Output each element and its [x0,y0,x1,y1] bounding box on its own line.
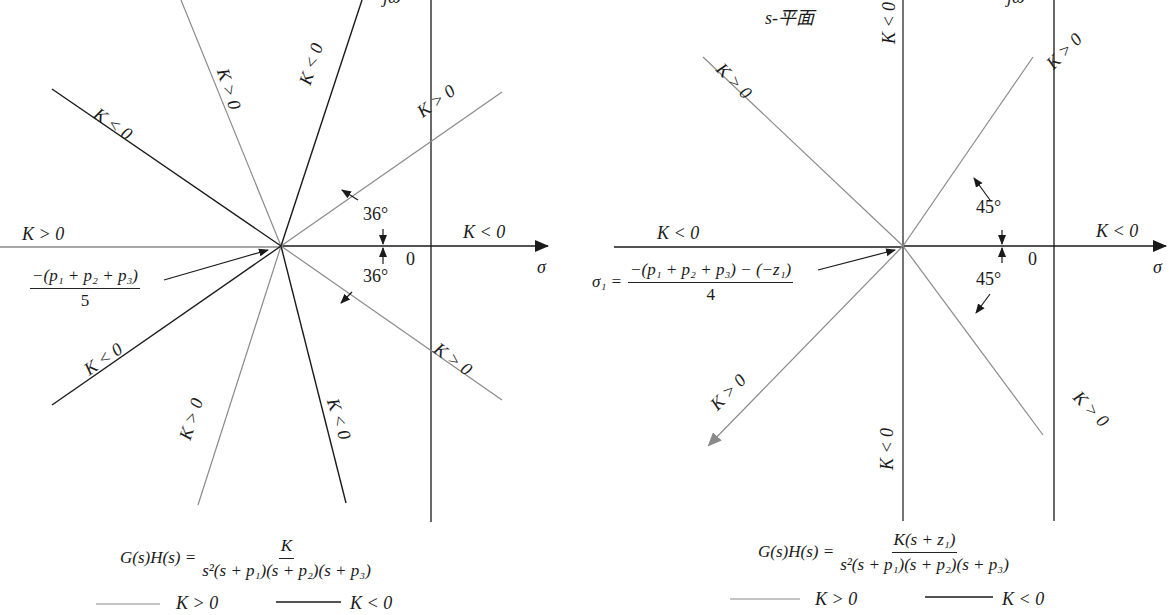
right-angle-lower-label: 45° [976,270,1001,288]
right-angle-lower-arrow [976,294,990,313]
right-tf-lhs: G(s)H(s) = [758,542,834,562]
right-sigma-label: σ [1153,258,1162,276]
right-legend-kpos-label: K > 0 [815,590,857,608]
left-asymptote-108 [181,0,281,246]
root-locus-asymptotes-drawing [0,0,1169,615]
right-asymptote-45 [903,57,1033,246]
left-centroid-formula: −(p₁ + p₂ + p₃) 5 [30,266,140,310]
left-angle-lower-label: 36° [363,267,388,285]
left-angle-upper-label: 36° [363,205,388,223]
left-asymptote-144 [52,89,281,246]
right-tf-numerator: K(s + z₁) [892,530,958,553]
left-centroid-numerator: −(p₁ + p₂ + p₃) [30,266,140,289]
left-legend-kpos-label: K > 0 [176,594,218,612]
left-tf-lhs: G(s)H(s) = [120,548,196,568]
right-label-vertical-down: K < 0 [878,428,896,470]
right-centroid-pointer [818,250,895,270]
right-asymptote-neg45 [903,246,1043,435]
right-centroid-formula: σ₁ = −(p₁ + p₂ + p₃) − (−z₁) 4 [592,260,793,304]
left-sigma-label: σ [537,258,546,276]
left-angle-lower-arrow [341,292,352,303]
right-tf-denominator: s²(s + p₁)(s + p₂)(s + p₃) [840,553,1009,575]
left-centroid-denominator: 5 [81,289,90,311]
left-transfer-function: G(s)H(s) = K s²(s + p₁)(s + p₂)(s + p₃) [120,536,371,580]
right-angle-upper-label: 45° [976,198,1001,216]
right-label-real-left: K < 0 [657,224,699,242]
left-jw-label: jω [383,0,401,6]
right-jw-label: jω [1007,0,1025,6]
left-tf-denominator: s²(s + p₁)(s + p₂)(s + p₃) [202,559,371,581]
right-label-real-right: K < 0 [1096,222,1138,240]
right-centroid-numerator: −(p₁ + p₂ + p₃) − (−z₁) [628,260,793,283]
right-origin-label: 0 [1028,250,1037,268]
left-label-real-right: K < 0 [463,223,505,241]
left-tf-fraction: K s²(s + p₁)(s + p₂)(s + p₃) [202,536,371,580]
left-asymptote-72 [281,0,362,246]
left-centroid-pointer [164,250,268,280]
right-transfer-function: G(s)H(s) = K(s + z₁) s²(s + p₁)(s + p₂)(… [758,530,1009,574]
left-label-real-left: K > 0 [22,225,64,243]
s-plane-label: s-平面 [765,9,814,27]
left-legend-kneg-label: K < 0 [350,594,392,612]
left-tf-numerator: K [279,536,294,559]
right-legend-kneg-label: K < 0 [1002,590,1044,608]
left-asymptote-neg108 [198,246,281,505]
right-tf-fraction: K(s + z₁) s²(s + p₁)(s + p₂)(s + p₃) [840,530,1009,574]
right-label-vertical-up: K < 0 [880,2,898,44]
left-origin-label: 0 [406,250,415,268]
right-centroid-denominator: 4 [706,283,715,305]
right-centroid-lhs: σ₁ = [592,272,622,292]
right-centroid-fraction: −(p₁ + p₂ + p₃) − (−z₁) 4 [628,260,793,304]
